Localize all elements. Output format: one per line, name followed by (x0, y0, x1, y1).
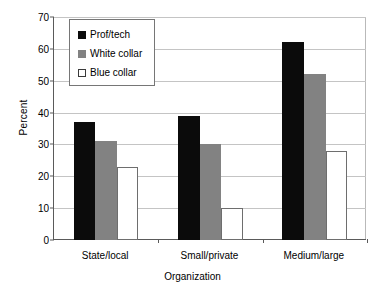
bar (304, 74, 326, 240)
y-tick-mark (50, 112, 54, 113)
y-tick-label: 0 (43, 235, 49, 246)
y-tick-label: 40 (38, 107, 49, 118)
legend-item: White collar (78, 44, 154, 63)
y-tick-mark (50, 208, 54, 209)
y-tick-label: 10 (38, 203, 49, 214)
bar (282, 42, 304, 240)
chart-legend: Prof/techWhite collarBlue collar (69, 19, 155, 86)
bar (326, 151, 348, 240)
bar (200, 144, 222, 240)
bar (221, 208, 243, 240)
legend-swatch-icon (78, 69, 86, 77)
gridline (54, 17, 366, 18)
y-tick-mark (50, 80, 54, 81)
bar (117, 167, 139, 240)
x-category-label: Small/private (181, 250, 239, 261)
y-tick-mark (50, 17, 54, 18)
x-axis-title: Organization (0, 271, 385, 282)
y-tick-label: 30 (38, 139, 49, 150)
x-tick-mark (263, 239, 264, 243)
y-tick-label: 70 (38, 12, 49, 23)
legend-label: Blue collar (90, 67, 137, 78)
legend-swatch-icon (78, 31, 86, 39)
legend-item: Blue collar (78, 63, 154, 82)
y-axis-title: Percent (18, 73, 29, 163)
x-tick-mark (158, 239, 159, 243)
bar (74, 122, 96, 240)
legend-label: White collar (90, 48, 142, 59)
bar (178, 116, 200, 240)
y-tick-mark (50, 240, 54, 241)
legend-item: Prof/tech (78, 25, 154, 44)
legend-label: Prof/tech (90, 29, 130, 40)
plot-frame-right (365, 17, 366, 239)
bar-chart: Percent 010203040506070 Organization Pro… (0, 0, 385, 294)
y-tick-label: 60 (38, 43, 49, 54)
x-tick-mark (367, 239, 368, 243)
y-tick-mark (50, 48, 54, 49)
y-tick-label: 20 (38, 171, 49, 182)
bar (95, 141, 117, 240)
y-tick-mark (50, 144, 54, 145)
x-category-label: Medium/large (284, 250, 345, 261)
y-tick-label: 50 (38, 75, 49, 86)
x-category-label: State/local (82, 250, 129, 261)
legend-swatch-icon (78, 50, 86, 58)
y-tick-mark (50, 176, 54, 177)
